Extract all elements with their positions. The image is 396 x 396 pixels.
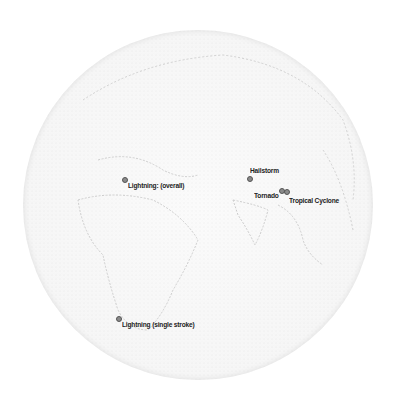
pin-icon[interactable] [284,189,290,195]
marker-label: Hailstorm [250,166,279,175]
globe-map[interactable] [23,30,373,380]
marker-label: Tornado [254,191,279,200]
landmass-outline [23,30,373,380]
marker-label: Tropical Cyclone [289,196,339,205]
marker-label: Lightning: (overall) [128,181,184,190]
marker-label: Lightning (single stroke) [122,320,195,329]
pin-icon[interactable] [247,176,253,182]
